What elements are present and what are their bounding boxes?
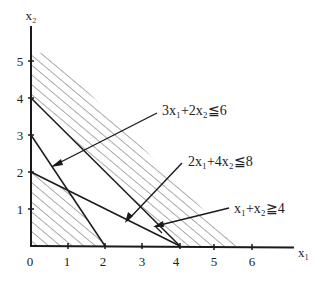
y-tick-1: 1 bbox=[17, 202, 24, 217]
y-tick-labels: 1 2 3 4 5 bbox=[17, 54, 24, 217]
lp-diagram: 0 1 2 3 4 5 6 1 2 3 4 5 x₂ x₁ 3x₁+2x₂≦6 … bbox=[0, 0, 324, 283]
label-c2: 2x₁+4x₂≦8 bbox=[188, 154, 253, 169]
y-tick-2: 2 bbox=[17, 165, 24, 180]
y-tick-5: 5 bbox=[17, 54, 24, 69]
y-tick-4: 4 bbox=[17, 91, 24, 106]
x-tick-1: 1 bbox=[64, 254, 71, 269]
x-tick-4: 4 bbox=[173, 254, 180, 269]
x-tick-labels: 0 1 2 3 4 5 6 bbox=[27, 254, 256, 269]
diagram-svg: 0 1 2 3 4 5 6 1 2 3 4 5 x₂ x₁ 3x₁+2x₂≦6 … bbox=[0, 0, 324, 283]
x-axis bbox=[30, 246, 294, 248]
x-tick-2: 2 bbox=[100, 254, 107, 269]
label-c3: x₁+x₂≧4 bbox=[234, 201, 285, 216]
hatched-feasible-region bbox=[31, 172, 105, 246]
x-tick-6: 6 bbox=[249, 254, 256, 269]
x-tick-5: 5 bbox=[211, 254, 218, 269]
arrowhead-icon bbox=[51, 159, 63, 167]
x-axis-label: x₁ bbox=[298, 245, 309, 260]
y-tick-3: 3 bbox=[17, 128, 24, 143]
label-c1: 3x₁+2x₂≦6 bbox=[162, 103, 227, 118]
y-axis-label: x₂ bbox=[25, 8, 36, 23]
x-tick-3: 3 bbox=[139, 254, 146, 269]
x-tick-0: 0 bbox=[27, 254, 34, 269]
